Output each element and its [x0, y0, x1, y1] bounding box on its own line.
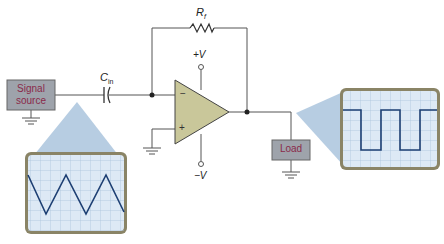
resistor-symbol: R: [196, 6, 204, 18]
capacitor-label: Cin: [100, 71, 113, 85]
signal-source-line-2: source: [7, 95, 55, 107]
capacitor-subscript: in: [108, 78, 113, 85]
load-label: Load: [272, 143, 310, 154]
circuit-diagram: [0, 0, 444, 244]
input-scope-projection: [30, 102, 122, 160]
noninverting-input-label: +: [179, 122, 185, 133]
plus-v-label: +V: [193, 49, 206, 60]
ground-icon: [22, 118, 40, 124]
ground-icon: [282, 172, 300, 178]
feedback-resistor: [190, 24, 214, 32]
resistor-subscript: f: [204, 13, 206, 20]
minus-v-label: −V: [194, 170, 207, 181]
input-oscilloscope: [25, 152, 127, 234]
inverting-input-label: −: [180, 88, 186, 99]
ground-icon: [143, 148, 161, 154]
output-oscilloscope: [340, 88, 440, 170]
signal-source-label: Signal source: [7, 83, 55, 107]
signal-source-line-1: Signal: [7, 83, 55, 95]
plus-v-terminal: [199, 65, 204, 70]
output-junction-dot: [245, 110, 250, 115]
capacitor-symbol: C: [100, 71, 108, 83]
resistor-label: Rf: [196, 6, 206, 20]
input-junction-dot: [150, 93, 155, 98]
minus-v-terminal: [199, 162, 204, 167]
